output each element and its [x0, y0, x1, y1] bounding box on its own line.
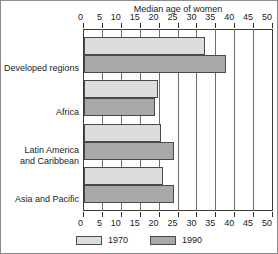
- axis-tick-label: 30: [186, 218, 197, 228]
- axis-tick-label: 20: [149, 12, 160, 22]
- axis-tick-label: 45: [243, 218, 254, 228]
- axis-tick-label: 15: [130, 12, 141, 22]
- axis-tick: [253, 212, 254, 217]
- axis-line-right: [272, 29, 273, 211]
- axis-tick: [102, 23, 103, 28]
- axis-tick-label: 30: [186, 12, 197, 22]
- category-label-line: Africa: [1, 107, 79, 118]
- axis-tick-label: 40: [224, 12, 235, 22]
- category-label-line: Asia and Pacific: [1, 194, 79, 205]
- axis-tick-label: 5: [97, 218, 103, 228]
- chart-figure: Median age of women Developed regionsAfr…: [0, 0, 278, 254]
- bar-1990: [84, 55, 226, 73]
- gridline: [234, 29, 235, 211]
- axis-tick-label: 50: [262, 218, 273, 228]
- axis-tick: [234, 212, 235, 217]
- category-label: Asia and Pacific: [1, 194, 79, 205]
- axis-tick-label: 25: [167, 218, 178, 228]
- axis-tick-label: 5: [97, 12, 103, 22]
- legend-swatch: [76, 236, 102, 245]
- gridline: [253, 29, 254, 211]
- axis-tick-label: 25: [167, 12, 178, 22]
- axis-tick: [83, 23, 84, 28]
- axis-tick: [140, 212, 141, 217]
- category-label: Africa: [1, 107, 79, 118]
- axis-tick: [253, 23, 254, 28]
- axis-tick: [102, 212, 103, 217]
- bar-1970: [84, 124, 161, 142]
- legend-label: 1970: [108, 235, 128, 245]
- axis-tick-label: 35: [205, 12, 216, 22]
- bar-1990: [84, 185, 174, 203]
- chart-legend: 19701990: [1, 235, 277, 245]
- axis-tick: [272, 23, 273, 28]
- axis-tick-label: 35: [205, 218, 216, 228]
- axis-tick: [272, 212, 273, 217]
- axis-tick: [196, 212, 197, 217]
- axis-tick: [121, 23, 122, 28]
- legend-item-1970: 1970: [76, 235, 128, 245]
- category-label: Latin Americaand Caribbean: [1, 145, 79, 166]
- bar-1990: [84, 142, 174, 160]
- category-label-line: and Caribbean: [1, 156, 79, 167]
- legend-item-1990: 1990: [150, 235, 202, 245]
- category-label-line: Developed regions: [1, 63, 79, 74]
- bar-1970: [84, 37, 205, 55]
- plot-area: 0055101015152020252530303535404045455050: [83, 29, 273, 211]
- axis-tick-label: 45: [243, 12, 254, 22]
- legend-label: 1990: [182, 235, 202, 245]
- axis-tick: [215, 23, 216, 28]
- axis-tick: [121, 212, 122, 217]
- bar-1970: [84, 167, 163, 185]
- axis-tick: [140, 23, 141, 28]
- category-axis-labels: Developed regionsAfricaLatin Americaand …: [1, 29, 79, 211]
- bar-1990: [84, 98, 155, 116]
- axis-tick-label: 0: [78, 12, 84, 22]
- axis-tick: [215, 212, 216, 217]
- category-label: Developed regions: [1, 63, 79, 74]
- axis-tick: [83, 212, 84, 217]
- axis-tick: [234, 23, 235, 28]
- axis-tick-label: 40: [224, 218, 235, 228]
- axis-tick: [196, 23, 197, 28]
- legend-swatch: [150, 236, 176, 245]
- axis-tick-label: 15: [130, 218, 141, 228]
- axis-tick: [159, 212, 160, 217]
- axis-tick-label: 0: [78, 218, 84, 228]
- category-label-line: Latin America: [1, 145, 79, 156]
- axis-tick-label: 50: [262, 12, 273, 22]
- bar-1970: [84, 80, 158, 98]
- axis-tick-label: 10: [111, 12, 122, 22]
- axis-tick: [178, 23, 179, 28]
- axis-tick: [178, 212, 179, 217]
- axis-tick-label: 10: [111, 218, 122, 228]
- axis-tick: [159, 23, 160, 28]
- axis-tick-label: 20: [149, 218, 160, 228]
